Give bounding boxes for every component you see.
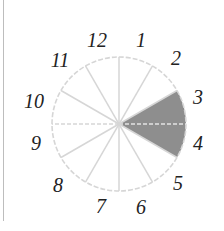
sector-label-7: 7 (96, 195, 107, 217)
sector-label-12: 12 (87, 29, 107, 51)
radial-line (86, 124, 120, 182)
sector-label-4: 4 (193, 132, 203, 154)
sector-label-9: 9 (31, 132, 41, 154)
sector-label-2: 2 (171, 47, 181, 69)
sector-label-11: 11 (51, 49, 70, 71)
sector-label-8: 8 (53, 174, 63, 196)
radial-line (61, 124, 119, 158)
sector-label-1: 1 (136, 29, 146, 51)
sector-label-3: 3 (192, 86, 203, 108)
clock-sector-diagram: 121234567891011 (0, 0, 224, 231)
sector-label-10: 10 (24, 90, 44, 112)
sector-label-6: 6 (136, 196, 146, 218)
radial-line (86, 66, 120, 124)
sector-circle: 121234567891011 (0, 0, 224, 231)
sector-label-5: 5 (173, 172, 183, 194)
radial-line (61, 91, 119, 125)
